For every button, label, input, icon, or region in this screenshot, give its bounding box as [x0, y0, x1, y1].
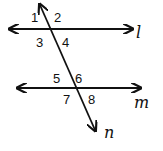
- angle-label-5: 5: [53, 71, 60, 86]
- angle-label-6: 6: [75, 71, 82, 86]
- line-label-n: n: [104, 123, 114, 142]
- angle-label-3: 3: [36, 35, 43, 50]
- parallel-lines-diagram: 1 2 3 4 5 6 7 8 l m n: [0, 0, 163, 151]
- angle-label-2: 2: [54, 10, 61, 25]
- angle-label-1: 1: [31, 10, 38, 25]
- line-label-m: m: [134, 93, 149, 112]
- angle-label-8: 8: [88, 92, 95, 107]
- angle-label-7: 7: [63, 92, 70, 107]
- angle-label-4: 4: [62, 35, 69, 50]
- transversal-n: [40, 5, 95, 130]
- line-label-l: l: [136, 23, 141, 42]
